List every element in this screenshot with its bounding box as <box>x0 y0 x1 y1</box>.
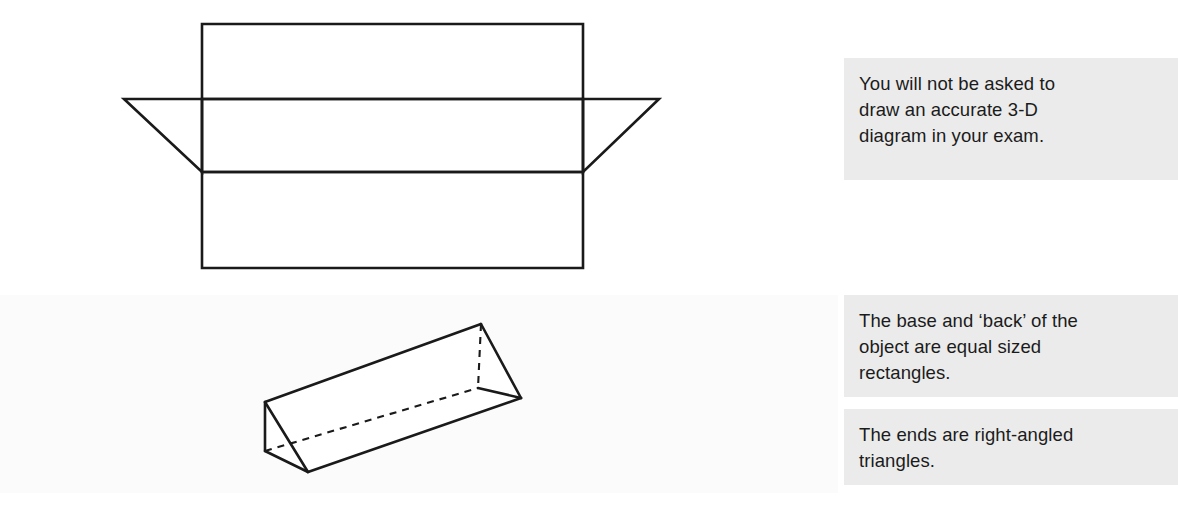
figure-page: You will not be asked to draw an accurat… <box>0 0 1178 507</box>
note-text-ends: The ends are right-angled triangles. <box>859 422 1162 474</box>
note-text-exam: You will not be asked to draw an accurat… <box>859 71 1162 149</box>
prism-diagram <box>0 295 838 507</box>
net-right-triangle-flap <box>583 99 659 172</box>
net-diagram-svg <box>0 0 838 295</box>
net-bottom-rectangle <box>202 172 583 268</box>
net-left-triangle-flap <box>124 99 202 172</box>
note-box-base-back: The base and ‘back’ of the object are eq… <box>844 295 1178 397</box>
net-top-rectangle <box>202 24 583 99</box>
prism-sloping-face <box>265 324 521 472</box>
annotation-notes: You will not be asked to draw an accurat… <box>844 0 1178 507</box>
note-box-ends: The ends are right-angled triangles. <box>844 409 1178 485</box>
net-diagram <box>0 0 838 295</box>
note-box-exam: You will not be asked to draw an accurat… <box>844 58 1178 180</box>
prism-diagram-svg <box>0 295 838 507</box>
net-middle-rectangle <box>202 99 583 172</box>
note-text-base-back: The base and ‘back’ of the object are eq… <box>859 308 1162 386</box>
